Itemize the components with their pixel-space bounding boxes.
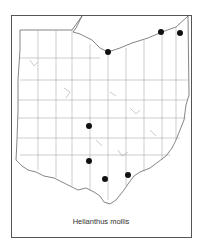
occurrence-dot [177,30,183,36]
occurrence-dot [125,172,131,178]
occurrence-dot [105,49,111,55]
county-lines [18,27,188,200]
occurrence-dots [86,29,183,182]
occurrence-dot [86,158,92,164]
ohio-county-map [0,0,202,251]
species-caption: Helianthus mollis [0,217,202,226]
occurrence-dot [158,29,164,35]
occurrence-dot [102,176,108,182]
state-outline [16,16,189,204]
occurrence-dot [86,123,92,129]
